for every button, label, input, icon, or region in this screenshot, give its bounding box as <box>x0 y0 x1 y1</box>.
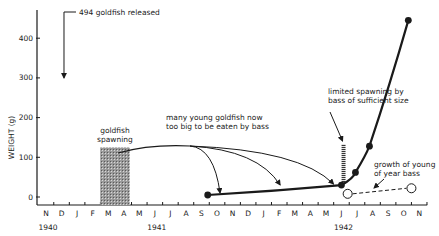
y-tick-label: 100 <box>19 153 34 162</box>
x-tick-label: J <box>75 209 78 218</box>
x-tick-label: A <box>183 209 189 218</box>
goldfish-data-point <box>366 143 373 150</box>
y-tick-label: 300 <box>19 73 34 82</box>
x-tick-label: A <box>121 209 127 218</box>
y-axis-label: WEIGHT (g) <box>7 116 16 159</box>
x-tick-label: S <box>386 209 391 218</box>
x-tick-label: M <box>105 209 111 218</box>
bass-data-point <box>343 189 352 198</box>
y-tick-label: 0 <box>28 193 33 202</box>
year-label: 1941 <box>147 223 166 232</box>
spawning-annotation: goldfish <box>100 126 130 135</box>
x-tick-label: N <box>416 209 422 218</box>
bass-growth-annotation: of year bass <box>374 169 420 178</box>
x-tick-label: M <box>136 209 142 218</box>
x-tick-label: J <box>339 209 342 218</box>
x-tick-label: J <box>355 209 358 218</box>
x-tick-label: D <box>245 209 251 218</box>
x-tick-label: A <box>370 209 376 218</box>
bass-spawning-arrow <box>330 112 343 141</box>
x-tick-label: O <box>401 209 407 218</box>
x-tick-label: J <box>168 209 171 218</box>
spawning-shaded-region <box>100 147 130 205</box>
x-tick-label: J <box>153 209 156 218</box>
x-tick-label: M <box>292 209 298 218</box>
x-tick-label: O <box>214 209 220 218</box>
goldfish-data-point <box>352 169 359 176</box>
bass-spawning-annotation: bass of sufficient size <box>328 96 409 105</box>
young-goldfish-annotation: too big to be eaten by bass <box>166 122 269 131</box>
release-arrow <box>64 12 76 78</box>
x-tick-label: M <box>323 209 329 218</box>
x-tick-label: A <box>308 209 314 218</box>
x-tick-label: F <box>90 209 94 218</box>
x-tick-label: J <box>262 209 265 218</box>
x-tick-label: N <box>43 209 49 218</box>
goldfish-data-point <box>405 17 412 24</box>
y-tick-label: 200 <box>19 113 34 122</box>
goldfish-data-point <box>204 192 211 199</box>
bass-growth-annotation: growth of young <box>374 160 436 169</box>
goldfish-data-point <box>338 182 345 189</box>
young-goldfish-annotation: many young goldfish now <box>166 113 263 122</box>
x-tick-label: S <box>199 209 204 218</box>
x-tick-label: F <box>277 209 281 218</box>
bass-growth-line <box>353 188 407 194</box>
bass-growth-arrow <box>374 179 384 188</box>
bass-spawning-annotation: limited spawning by <box>328 87 404 96</box>
annotations: 494 goldfish releasedgoldfishspawningman… <box>64 8 436 205</box>
bass-data-point <box>407 184 416 193</box>
release-annotation: 494 goldfish released <box>79 8 160 17</box>
spawning-annotation: spawning <box>97 135 133 144</box>
fan-arrow <box>190 146 334 184</box>
year-label: 1942 <box>334 223 353 232</box>
x-tick-label: D <box>59 209 65 218</box>
fan-arrow <box>190 146 220 193</box>
y-tick-label: 400 <box>19 34 34 43</box>
x-tick-label: N <box>230 209 236 218</box>
goldfish-growth-chart: 0100200300400WEIGHT (g)NDJFMAMJJASONDJFM… <box>0 0 439 236</box>
year-label: 1940 <box>38 223 57 232</box>
